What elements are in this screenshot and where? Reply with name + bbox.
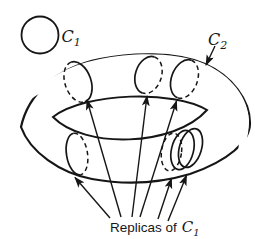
arrow-to-bottom-right-replica-1 xyxy=(158,179,172,220)
legend-circle-c1 xyxy=(22,17,59,54)
caption-replicas: Replicas ofC1 xyxy=(110,218,200,238)
torus-figure: C1 C2 Replicas ofC1 xyxy=(0,0,255,239)
torus-figure-canvas: C1 C2 Replicas ofC1 xyxy=(0,0,255,239)
arrow-to-bottom-left-replica xyxy=(75,178,110,219)
arrow-to-top-left-replica xyxy=(87,100,121,217)
legend-label-c1: C1 xyxy=(62,27,81,49)
arrow-to-top-middle-replica xyxy=(132,96,147,217)
tube-label-c2: C2 xyxy=(208,30,227,52)
